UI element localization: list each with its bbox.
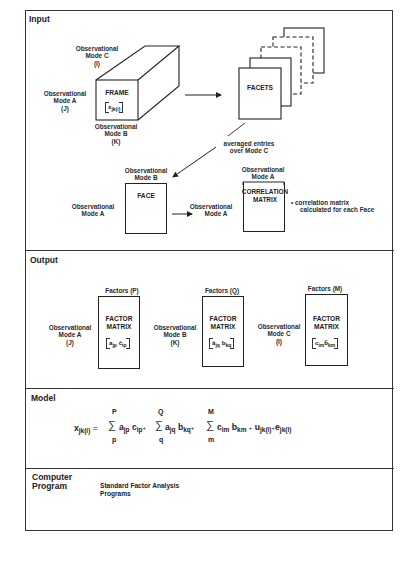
matrix-p-entry: ajp ĉip <box>106 338 130 349</box>
facets-front: FACETS <box>239 68 281 119</box>
sigma-p-icon: ∑ <box>108 419 116 431</box>
matrix-q-entry: âjq bkq <box>209 338 234 349</box>
factors-q-label: Factors (Q) <box>201 287 243 294</box>
factors-p-label: Factors (P) <box>101 287 143 294</box>
averaged-note: averaged entries over Mode C <box>218 140 280 155</box>
factors-m-label: Factors (M) <box>304 285 346 292</box>
factor-matrix-q: FACTOR MATRIX âjq bkq <box>202 296 244 367</box>
arrow-to-face <box>173 147 216 177</box>
correlation-label: CORRELATION MATRIX <box>240 188 290 203</box>
factor-matrix-p: FACTOR MATRIX ajp ĉip <box>98 296 140 369</box>
section-title-computer-program: Computer Program <box>32 473 72 490</box>
output-mode-c-label: Observational Mode C (I) <box>253 323 305 345</box>
face-box: FACE <box>125 183 167 234</box>
frame-matrix: xjk(i) <box>105 102 123 113</box>
factor-matrix-m: FACTOR MATRIX cimb̂km <box>305 294 348 366</box>
section-title-input: Input <box>29 15 50 24</box>
section-title-output: Output <box>30 256 58 265</box>
correlation-note: • correlation matrix calculated for each… <box>291 199 374 214</box>
section-title-model: Model <box>31 394 56 403</box>
frame-label: FRAME <box>96 89 138 97</box>
output-mode-a-label: Observational Mode A (J) <box>43 324 97 346</box>
facets-note-leader <box>228 123 245 136</box>
facets-label: FACETS <box>239 84 281 92</box>
arrow-mode-a-label: Observational Mode A <box>186 203 236 218</box>
face-mode-a-label: Observational Mode A <box>68 203 118 218</box>
matrix-m-entry: cimb̂km <box>312 338 338 349</box>
correlation-box: CORRELATION MATRIX <box>243 182 285 232</box>
output-mode-b-label: Observational Mode B (K) <box>149 324 201 346</box>
face-label: FACE <box>126 192 166 200</box>
frame-mode-b-label: Observational Mode B (K) <box>91 123 141 145</box>
sigma-m-icon: ∑ <box>206 419 214 431</box>
face-mode-b-label: Observational Mode B <box>121 167 171 182</box>
computer-program-text: Standard Factor Analysis Programs <box>100 482 179 497</box>
frame-face: FRAME xjk(i) <box>96 80 138 120</box>
sigma-q-icon: ∑ <box>155 419 163 431</box>
frame-mode-a-label: Observational Mode A (J) <box>38 90 92 112</box>
frame-mode-c-label: Observational Mode C (I) <box>72 45 122 67</box>
correlation-mode-a-label: Observational Mode A <box>238 166 288 181</box>
